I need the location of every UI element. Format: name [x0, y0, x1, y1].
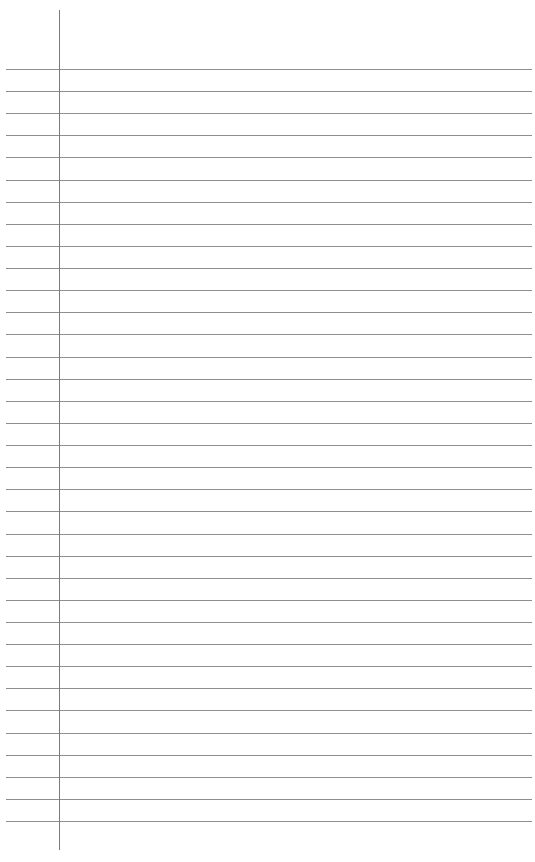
ruled-line	[6, 180, 532, 181]
ruled-line	[6, 401, 532, 402]
ruled-line	[6, 157, 532, 158]
ruled-line	[6, 733, 532, 734]
ruled-line	[6, 224, 532, 225]
ruled-line	[6, 69, 532, 70]
ruled-line	[6, 268, 532, 269]
ruled-line	[6, 467, 532, 468]
ruled-line	[6, 578, 532, 579]
ruled-line	[6, 91, 532, 92]
ruled-line	[6, 644, 532, 645]
ruled-line	[6, 113, 532, 114]
ruled-line	[6, 600, 532, 601]
ruled-line	[6, 312, 532, 313]
ruled-line	[6, 202, 532, 203]
ruled-line	[6, 799, 532, 800]
ruled-line	[6, 556, 532, 557]
ruled-line	[6, 135, 532, 136]
ruled-line	[6, 666, 532, 667]
ruled-line	[6, 710, 532, 711]
ruled-line	[6, 290, 532, 291]
ruled-line	[6, 379, 532, 380]
ruled-line	[6, 688, 532, 689]
ruled-line	[6, 445, 532, 446]
ruled-line	[6, 423, 532, 424]
ruled-line	[6, 357, 532, 358]
ruled-line	[6, 622, 532, 623]
ruled-line	[6, 821, 532, 822]
ruled-line	[6, 246, 532, 247]
ruled-line	[6, 777, 532, 778]
ruled-line	[6, 489, 532, 490]
ruled-line	[6, 534, 532, 535]
ruled-line	[6, 755, 532, 756]
ruled-line	[6, 511, 532, 512]
ruled-paper-page	[0, 0, 535, 862]
ruled-line	[6, 334, 532, 335]
margin-line	[59, 10, 60, 850]
